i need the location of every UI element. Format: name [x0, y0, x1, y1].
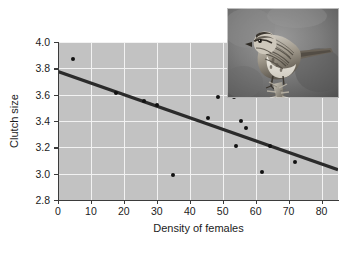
data-point	[206, 116, 210, 120]
x-axis-tick-label: 10	[85, 205, 97, 217]
data-point	[142, 99, 146, 103]
x-axis-tick	[322, 200, 323, 204]
y-axis-tick-label: 3.4	[35, 115, 50, 127]
x-axis-tick	[190, 200, 191, 204]
y-axis-tick-label: 2.8	[35, 194, 50, 206]
data-point	[114, 91, 118, 95]
data-point	[71, 57, 75, 61]
y-axis-tick	[54, 147, 58, 148]
x-axis-tick-label: 20	[118, 205, 130, 217]
y-axis-tick-label: 3.2	[35, 141, 50, 153]
x-axis-tick	[223, 200, 224, 204]
x-axis-tick	[91, 200, 92, 204]
data-point	[260, 170, 264, 174]
y-axis-tick	[54, 121, 58, 122]
data-point	[244, 126, 248, 130]
x-axis-tick-label: 30	[151, 205, 163, 217]
x-axis-line	[58, 200, 339, 201]
data-point	[293, 160, 297, 164]
y-axis-tick-label: 3.0	[35, 168, 50, 180]
y-axis-tick-label: 3.6	[35, 89, 50, 101]
x-axis-tick	[58, 200, 59, 204]
sparrow-illustration	[227, 8, 339, 98]
y-axis-line	[58, 42, 59, 201]
data-point	[155, 103, 159, 107]
y-axis-tick	[54, 174, 58, 175]
y-axis-title: Clutch size	[6, 42, 22, 200]
x-axis-tick-label: 50	[217, 205, 229, 217]
data-point	[216, 95, 220, 99]
y-axis-tick	[54, 42, 58, 43]
y-axis-tick-label: 4.0	[35, 36, 50, 48]
x-axis-tick	[289, 200, 290, 204]
y-axis-tick	[54, 68, 58, 69]
data-point	[268, 144, 272, 148]
figure-container: 01020304050607080 2.83.03.23.43.63.84.0 …	[0, 0, 359, 253]
data-point	[171, 173, 175, 177]
data-point	[239, 119, 243, 123]
x-axis-tick-label: 40	[184, 205, 196, 217]
x-axis-tick-label: 0	[55, 205, 61, 217]
y-axis-tick	[54, 95, 58, 96]
song-sparrow-photo-inset	[227, 8, 339, 98]
x-axis-tick	[157, 200, 158, 204]
x-axis-title: Density of females	[58, 222, 339, 234]
x-axis-tick-label: 80	[316, 205, 328, 217]
x-axis-tick	[124, 200, 125, 204]
y-axis-title-text: Clutch size	[8, 94, 20, 148]
y-axis-tick-label: 3.8	[35, 62, 50, 74]
data-point	[234, 144, 238, 148]
x-axis-tick-label: 70	[283, 205, 295, 217]
y-axis-tick	[54, 200, 58, 201]
x-axis-tick	[256, 200, 257, 204]
x-axis-tick-label: 60	[250, 205, 262, 217]
